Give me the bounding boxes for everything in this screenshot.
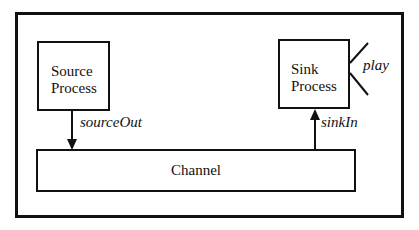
sink-in-arrow — [310, 109, 320, 149]
play-label: play — [363, 57, 389, 74]
sink-in-label: sinkIn — [321, 114, 358, 131]
source-out-label: sourceOut — [80, 114, 142, 131]
source-out-arrow — [67, 111, 77, 150]
